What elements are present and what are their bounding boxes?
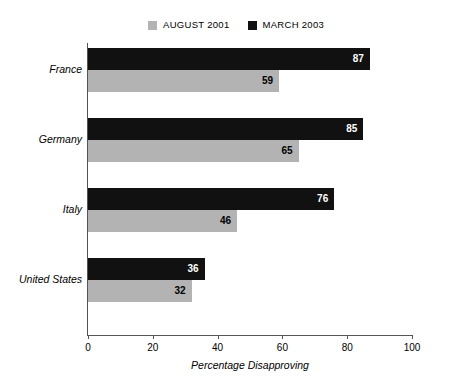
x-axis-line bbox=[87, 335, 412, 336]
bar-value-germany-march-2003: 85 bbox=[346, 124, 363, 134]
bar-value-united-states-march-2003: 36 bbox=[188, 264, 205, 274]
bar-value-germany-august-2001: 65 bbox=[281, 146, 298, 156]
legend-swatch-august-2001-icon bbox=[148, 21, 157, 30]
bar-france-august-2001: 59 bbox=[88, 70, 279, 92]
category-label-germany: Germany bbox=[39, 133, 82, 145]
x-tick-mark bbox=[282, 335, 283, 339]
bar-group-france: 87 59 bbox=[88, 48, 412, 92]
bar-value-italy-august-2001: 46 bbox=[220, 216, 237, 226]
chart-legend: AUGUST 2001 MARCH 2003 bbox=[148, 18, 324, 32]
bar-germany-march-2003: 85 bbox=[88, 118, 363, 140]
legend-item-march-2003: MARCH 2003 bbox=[248, 20, 325, 30]
bar-united-states-august-2001: 32 bbox=[88, 280, 192, 302]
x-tick-mark bbox=[412, 335, 413, 339]
bar-germany-august-2001: 65 bbox=[88, 140, 299, 162]
bar-italy-august-2001: 46 bbox=[88, 210, 237, 232]
bar-value-france-august-2001: 59 bbox=[262, 76, 279, 86]
x-tick-label: 0 bbox=[85, 342, 91, 353]
legend-swatch-march-2003-icon bbox=[248, 21, 257, 30]
x-tick-mark bbox=[88, 335, 89, 339]
bar-value-united-states-august-2001: 32 bbox=[175, 286, 192, 296]
x-tick-mark bbox=[218, 335, 219, 339]
category-label-france: France bbox=[49, 63, 82, 75]
bar-france-march-2003: 87 bbox=[88, 48, 370, 70]
legend-item-august-2001: AUGUST 2001 bbox=[148, 20, 230, 30]
category-axis-labels: France Germany Italy United States bbox=[0, 43, 82, 335]
bar-chart: AUGUST 2001 MARCH 2003 France Germany It… bbox=[0, 0, 451, 388]
x-tick-label: 40 bbox=[212, 342, 223, 353]
legend-label-march-2003: MARCH 2003 bbox=[263, 20, 325, 30]
x-tick-label: 20 bbox=[147, 342, 158, 353]
plot-area: 020406080100 87 59 85 65 76 46 bbox=[88, 43, 412, 335]
x-tick-label: 80 bbox=[342, 342, 353, 353]
x-axis-title: Percentage Disapproving bbox=[88, 359, 412, 371]
x-tick-mark bbox=[153, 335, 154, 339]
bar-group-italy: 76 46 bbox=[88, 188, 412, 232]
bar-group-germany: 85 65 bbox=[88, 118, 412, 162]
x-tick-mark bbox=[347, 335, 348, 339]
x-tick-label: 60 bbox=[277, 342, 288, 353]
bar-united-states-march-2003: 36 bbox=[88, 258, 205, 280]
bar-value-france-march-2003: 87 bbox=[353, 54, 370, 64]
category-label-italy: Italy bbox=[63, 203, 82, 215]
bar-group-united-states: 36 32 bbox=[88, 258, 412, 302]
bar-value-italy-march-2003: 76 bbox=[317, 194, 334, 204]
bar-italy-march-2003: 76 bbox=[88, 188, 334, 210]
category-label-united-states: United States bbox=[19, 273, 82, 285]
legend-label-august-2001: AUGUST 2001 bbox=[163, 20, 230, 30]
x-tick-label: 100 bbox=[404, 342, 421, 353]
